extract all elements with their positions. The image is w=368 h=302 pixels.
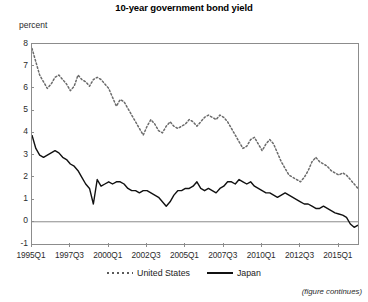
chart-canvas bbox=[32, 44, 358, 244]
y-axis-tick-label: 5 bbox=[2, 105, 28, 113]
x-axis-tick-mark bbox=[108, 243, 109, 247]
y-axis-tick-mark bbox=[31, 199, 34, 200]
y-axis-tick-label: 2 bbox=[2, 172, 28, 180]
legend-item-japan: Japan bbox=[207, 268, 261, 278]
x-axis-tick-mark bbox=[338, 243, 339, 247]
x-axis-tick-label: 2005Q1 bbox=[170, 250, 199, 260]
plot-area bbox=[31, 43, 359, 245]
y-axis-tick-mark bbox=[31, 65, 34, 66]
data-series-group bbox=[32, 48, 358, 227]
x-axis-tick-label: 2007Q3 bbox=[208, 250, 237, 260]
y-axis-tick-mark bbox=[31, 221, 34, 222]
x-axis-tick-mark bbox=[261, 243, 262, 247]
page-title: 10-year government bond yield bbox=[0, 2, 368, 13]
series-line-united-states bbox=[32, 48, 358, 188]
y-axis-tick-mark bbox=[31, 87, 34, 88]
legend-label-united-states: United States bbox=[137, 268, 190, 278]
x-axis-tick-label: 1995Q1 bbox=[17, 250, 46, 260]
y-axis-tick-mark bbox=[31, 132, 34, 133]
legend-item-united-states: United States bbox=[107, 268, 190, 278]
x-axis-tick-mark bbox=[299, 243, 300, 247]
x-axis-tick-label: 2012Q3 bbox=[285, 250, 314, 260]
chart-legend: United States Japan bbox=[0, 268, 368, 278]
series-line-japan bbox=[32, 135, 358, 227]
x-axis-tick-label: 1997Q3 bbox=[55, 250, 84, 260]
y-axis-tick-label: 6 bbox=[2, 83, 28, 91]
x-axis-tick-mark bbox=[184, 243, 185, 247]
y-axis-tick-label: 1 bbox=[2, 194, 28, 202]
x-axis-tick-label: 2010Q1 bbox=[247, 250, 276, 260]
y-axis-tick-label: 4 bbox=[2, 127, 28, 135]
y-axis-tick-label: 7 bbox=[2, 61, 28, 69]
y-axis-tick-label: 3 bbox=[2, 150, 28, 158]
x-axis-tick-label: 2000Q1 bbox=[93, 250, 122, 260]
y-axis-tick-mark bbox=[31, 110, 34, 111]
y-axis-tick-label: 8 bbox=[2, 39, 28, 47]
legend-label-japan: Japan bbox=[237, 268, 261, 278]
y-axis-tick-label: 0 bbox=[2, 216, 28, 224]
x-axis-tick-mark bbox=[31, 243, 32, 247]
figure-container: 10-year government bond yield percent 87… bbox=[0, 0, 368, 302]
x-axis-tick-mark bbox=[146, 243, 147, 247]
y-axis-tick-mark bbox=[31, 176, 34, 177]
y-axis-tick-mark bbox=[31, 154, 34, 155]
dotted-line-icon bbox=[107, 272, 133, 274]
x-axis-tick-mark bbox=[223, 243, 224, 247]
x-axis-tick-label: 2002Q3 bbox=[132, 250, 161, 260]
y-axis-tick-label: -1 bbox=[2, 239, 28, 247]
x-axis-tick-mark bbox=[69, 243, 70, 247]
x-axis-tick-label: 2015Q1 bbox=[323, 250, 352, 260]
solid-line-icon bbox=[207, 272, 233, 274]
figure-continues-note: (figure continues) bbox=[302, 287, 362, 296]
